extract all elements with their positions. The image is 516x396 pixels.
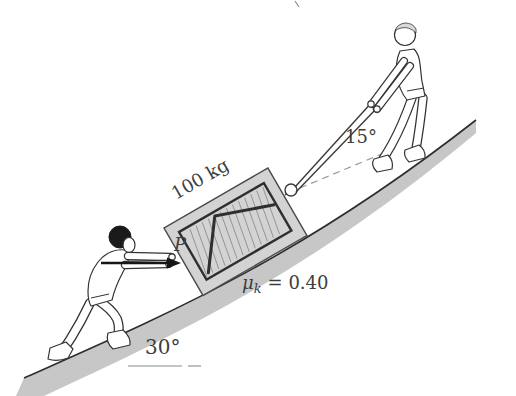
incline-angle-label: 30° — [145, 335, 180, 359]
page-crop-artifact — [295, 1, 299, 7]
rope-angle-label: 15° — [345, 126, 377, 147]
puller-back-shoe — [405, 145, 426, 162]
puller-hand-2 — [374, 106, 380, 112]
push-force-label: P — [173, 234, 187, 255]
puller-front-shoe — [373, 155, 393, 172]
puller-hand — [368, 101, 374, 107]
textbook-figure-page: 100 kg P 15° 30° μk= 0.40 — [0, 0, 516, 396]
puller-figure — [368, 23, 425, 172]
pusher-face — [123, 238, 135, 253]
physics-diagram: 100 kg P 15° 30° μk= 0.40 — [0, 0, 516, 396]
